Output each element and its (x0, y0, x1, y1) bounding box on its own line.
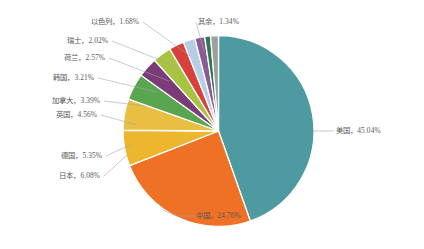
slice-label-netherlands: 荷兰，2.57% (64, 54, 105, 61)
slice-label-israel: 以色列，1.68% (91, 18, 139, 25)
slice-label-japan: 日本，6.08% (59, 172, 100, 179)
slice-label-others: 其余，1.34% (198, 18, 239, 25)
slice-label-china: 中国，24.76% (196, 212, 241, 219)
slice-label-uk: 英国，4.56% (56, 111, 97, 118)
slice-label-germany: 德国，5.35% (61, 152, 102, 159)
pie-chart: 美国，45.04% 中国，24.76% 日本，6.08% 德国，5.35% 英国… (0, 0, 424, 249)
slice-label-korea: 韩国，3.21% (53, 74, 94, 81)
pie-slice-group (123, 36, 314, 227)
slice-label-switzerland: 瑞士，2.02% (67, 37, 108, 44)
slice-label-canada: 加拿大，3.39% (52, 97, 100, 104)
leader-line-japan (104, 155, 127, 176)
slice-label-us: 美国，45.04% (336, 127, 381, 134)
